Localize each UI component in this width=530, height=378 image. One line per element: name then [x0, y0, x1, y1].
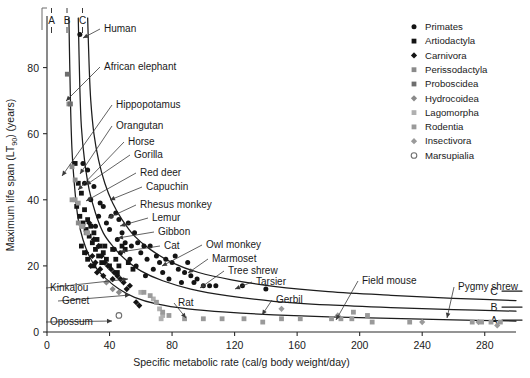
data-point-primates [207, 283, 212, 288]
data-point-primates [213, 283, 218, 288]
data-point-primates [163, 257, 168, 262]
y-tick-label: 80 [27, 62, 39, 74]
curve-top-label-A: A [48, 15, 55, 26]
data-point-primates [101, 204, 106, 209]
data-point-rodentia [365, 313, 370, 318]
data-point-primates [91, 184, 96, 189]
callout-leader-orangutan [80, 126, 112, 174]
data-point-rodentia [370, 320, 375, 325]
data-point-artiodactyla [110, 247, 115, 252]
x-tick-label: 120 [226, 339, 244, 351]
callout-label-rhesus-monkey: Rhesus monkey [140, 199, 212, 210]
callout-arrow-hippopotamus [62, 171, 67, 176]
data-point-primates [191, 280, 196, 285]
callout-arrow-orangutan [80, 169, 85, 174]
callout-label-human: Human [104, 23, 136, 34]
callout-label-tree-shrew: Tree shrew [228, 265, 278, 276]
curve-top-label-B: B [64, 15, 71, 26]
callout-label-pygmy-shrew: Pygmy shrew [458, 281, 519, 292]
callout-label-marmoset: Marmoset [212, 253, 257, 264]
data-point-proboscidea [68, 102, 73, 107]
data-point-rodentia [85, 230, 90, 235]
figure-root: 04080120160200240280020406080Specific me… [0, 0, 530, 378]
data-point-primates [188, 273, 193, 278]
data-point-primates [138, 250, 143, 255]
callout-label-capuchin: Capuchin [146, 181, 188, 192]
x-tick-label: 240 [413, 339, 431, 351]
data-point-primates [176, 267, 181, 272]
data-point-rodentia [470, 320, 475, 325]
callout-leader-capuchin [110, 187, 142, 200]
legend-marker-artiodactyla [412, 39, 417, 44]
legend-marker-rodentia [412, 125, 417, 130]
data-point-rodentia [407, 320, 412, 325]
data-point-lagomorpha [159, 316, 164, 321]
data-point-primates [80, 161, 85, 166]
legend-marker-carnivora [411, 52, 417, 58]
legend-marker-marsupialia [411, 153, 417, 159]
callout-label-horse: Horse [128, 136, 155, 147]
data-point-marsupialia [116, 313, 122, 319]
data-point-primates [96, 214, 101, 219]
y-tick-label: 20 [27, 260, 39, 272]
legend-label-lagomorpha: Lagomorpha [425, 107, 480, 118]
data-point-primates [120, 230, 125, 235]
data-point-primates [85, 168, 90, 173]
data-point-rodentia [142, 290, 147, 295]
data-point-artiodactyla [102, 244, 107, 249]
data-point-perissodactyla [70, 164, 75, 169]
x-tick-label: 40 [104, 339, 116, 351]
legend-marker-lagomorpha [412, 110, 417, 115]
data-point-rodentia [148, 293, 153, 298]
legend-marker-perissodactyla [412, 67, 417, 72]
data-point-artiodactyla [131, 267, 136, 272]
legend-label-proboscidea: Proboscidea [425, 78, 479, 89]
data-point-primates [185, 260, 190, 265]
data-point-primates [166, 277, 171, 282]
callout-label-tarsier: Tarsier [256, 276, 287, 287]
scatter-chart: 04080120160200240280020406080Specific me… [0, 0, 530, 378]
data-point-artiodactyla [77, 214, 82, 219]
callout-label-orangutan: Orangutan [116, 120, 163, 131]
data-point-rodentia [279, 316, 284, 321]
data-point-primates [160, 270, 165, 275]
data-point-rodentia [329, 316, 334, 321]
data-point-primates [77, 32, 82, 37]
legend-label-rodentia: Rodentia [425, 121, 464, 132]
legend-label-hydrocoidea: Hydrocoidea [425, 93, 480, 104]
data-point-primates [143, 273, 148, 278]
data-point-rodentia [242, 316, 247, 321]
data-point-rodentia [79, 224, 84, 229]
data-point-primates [154, 253, 159, 258]
data-point-rodentia [160, 310, 165, 315]
y-tick-label: 40 [27, 194, 39, 206]
callout-label-genet: Genet [62, 295, 89, 306]
data-point-proboscidea [65, 72, 70, 77]
y-tick-label: 60 [27, 128, 39, 140]
y-tick-label: 0 [33, 326, 39, 338]
callout-arrow-opossum [107, 319, 112, 324]
curve-top-label-C: C [79, 15, 86, 26]
callout-label-owl-monkey: Owl monkey [206, 239, 261, 250]
data-point-primates [151, 267, 156, 272]
legend-label-artiodactyla: Artiodactyla [425, 35, 476, 46]
legend-marker-proboscidea [412, 82, 417, 87]
callout-label-gerbil: Gerbil [276, 294, 303, 305]
data-point-primates [116, 217, 121, 222]
data-point-primates [107, 227, 112, 232]
callout-label-lemur: Lemur [152, 212, 181, 223]
data-point-primates [93, 224, 98, 229]
legend-marker-primates [412, 24, 417, 29]
x-axis-title: Specific metabolic rate (cal/g body weig… [133, 356, 350, 368]
data-point-rodentia [351, 310, 356, 315]
x-tick-label: 160 [288, 339, 306, 351]
legend-label-carnivora: Carnivora [425, 50, 467, 61]
legend-label-primates: Primates [425, 21, 463, 32]
callout-label-kinkajou: Kinkajou [50, 282, 88, 293]
data-point-primates [157, 260, 162, 265]
data-point-perissodactyla [73, 178, 78, 183]
callout-label-opossum: Opossum [50, 316, 93, 327]
data-point-primates [263, 287, 268, 292]
data-point-rodentia [298, 316, 303, 321]
legend-marker-insectivora [411, 138, 417, 144]
